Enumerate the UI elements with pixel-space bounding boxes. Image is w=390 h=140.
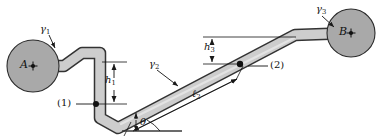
gamma-1-label: γ1: [40, 24, 50, 35]
pipe-outline: [33, 33, 351, 128]
h1-label: h1: [105, 75, 116, 86]
tank-b-label: B: [339, 26, 347, 37]
figure-canvas: [0, 0, 390, 140]
station-1-marker: [76, 101, 99, 107]
gamma-3-label: γ3: [316, 4, 326, 15]
gamma-2-subscript: 2: [155, 63, 159, 71]
h3-label: h3: [204, 42, 215, 53]
tank-a-center-dot: [31, 64, 35, 68]
h1-subscript: 1: [111, 79, 115, 87]
manometer-figure: A B γ1 γ2 γ3 (1) (2) h1 h3 ℓ2 θ: [0, 0, 390, 140]
pipe-assembly: [33, 33, 351, 128]
station-1-label: (1): [57, 98, 71, 108]
tank-b: [327, 9, 375, 57]
theta-label: θ: [140, 117, 146, 127]
l2-subscript: 2: [196, 93, 200, 101]
l2-label: ℓ2: [192, 89, 201, 100]
theta-arc: [147, 120, 160, 131]
tank-a: [7, 40, 59, 92]
tank-a-label: A: [20, 59, 28, 70]
h3-subscript: 3: [210, 46, 214, 54]
tank-b-center-dot: [349, 31, 353, 35]
gamma-1-subscript: 1: [46, 28, 50, 36]
gamma-2-leader: [157, 70, 178, 86]
station-2-label: (2): [270, 60, 284, 70]
gamma-2-label: γ2: [149, 59, 159, 70]
gamma-3-subscript: 3: [322, 8, 326, 16]
